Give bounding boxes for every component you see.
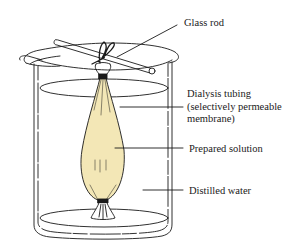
label-dialysis-tubing: Dialysis tubing (selectively permeable m… [187, 88, 282, 126]
label-distilled-water: Distilled water [189, 185, 251, 198]
label-glass-rod: Glass rod [184, 17, 224, 30]
label-prepared-solution: Prepared solution [189, 143, 263, 156]
dialysis-bag [81, 63, 124, 220]
dialysis-diagram: Glass rod Dialysis tubing (selectively p… [0, 0, 299, 249]
leader-lines [115, 25, 183, 190]
